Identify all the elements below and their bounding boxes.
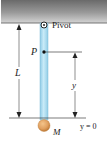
- point-p-label: P: [31, 47, 37, 57]
- mass-ball: [38, 120, 50, 132]
- point-p-marker: [42, 50, 82, 53]
- length-label: L: [15, 67, 21, 79]
- pivot-label: Pivot: [52, 21, 71, 30]
- rod: [40, 23, 48, 120]
- pivot-icon: [41, 22, 47, 28]
- pendulum-diagram: Pivot P L y M y = 0: [0, 0, 107, 141]
- height-label: y: [72, 80, 76, 91]
- mass-label: M: [53, 128, 61, 137]
- origin-label: y = 0: [80, 123, 97, 131]
